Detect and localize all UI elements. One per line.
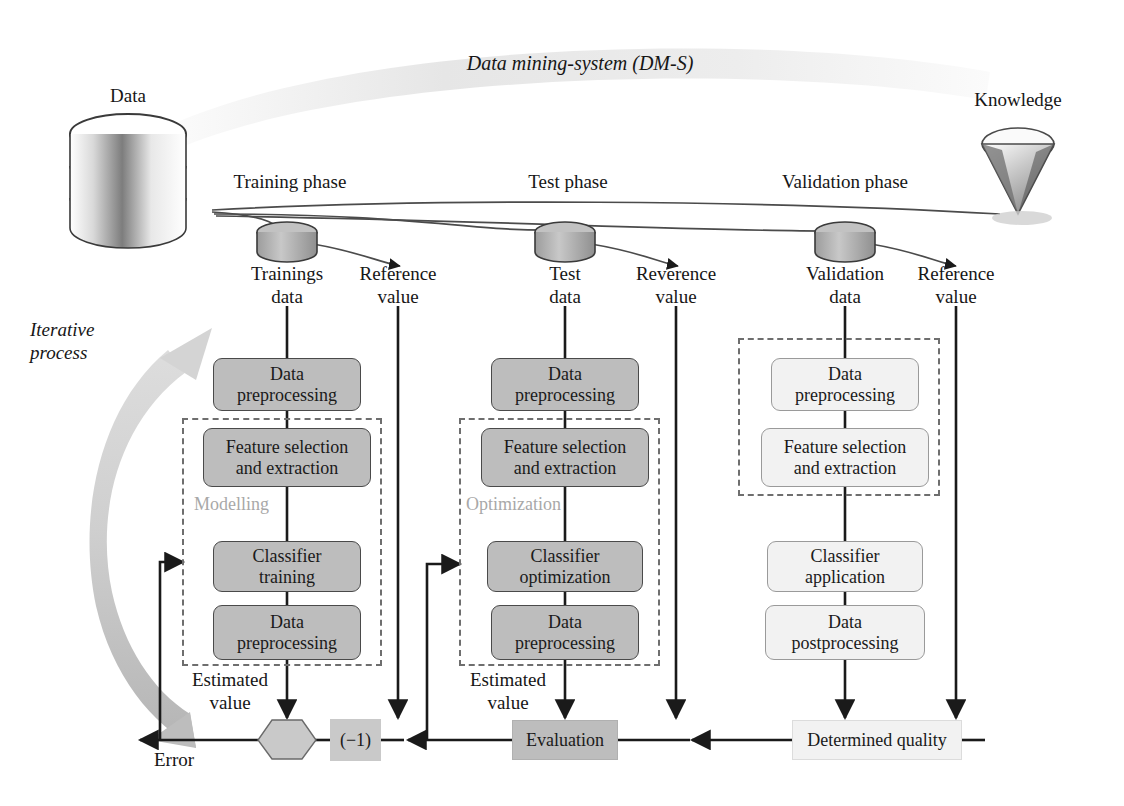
data-cylinder-icon-test <box>535 222 595 262</box>
process-box-training-0[interactable]: Data preprocessing <box>213 358 361 411</box>
phase-label-test: Test phase <box>488 170 648 193</box>
process-box-validation-0[interactable]: Data preprocessing <box>771 358 919 411</box>
reference-label-training: Reference value <box>338 262 458 308</box>
estimated-label-training: Estimated value <box>165 668 295 714</box>
data-label-validation: Validation data <box>785 262 905 308</box>
process-box-test-0[interactable]: Data preprocessing <box>491 358 639 411</box>
data-label-test: Test data <box>505 262 625 308</box>
database-stack-icon <box>70 114 186 248</box>
diamond-gem-icon <box>982 128 1054 225</box>
sum-node-label: + <box>258 729 316 752</box>
reference-label-test: Reverence value <box>616 262 736 308</box>
source-label: Data <box>68 84 188 107</box>
phase-label-validation: Validation phase <box>740 170 950 193</box>
iterative-process-label: Iterative process <box>30 318 160 364</box>
banner-title: Data mining-system (DM-S) <box>430 52 730 75</box>
data-cylinder-icon-validation <box>815 222 875 262</box>
determined-quality-box[interactable]: Determined quality <box>792 720 962 760</box>
data-cylinder-icon-training <box>257 222 317 262</box>
process-box-validation-2[interactable]: Classifier application <box>767 541 923 592</box>
process-box-training-3[interactable]: Data preprocessing <box>213 605 361 660</box>
process-box-test-2[interactable]: Classifier optimization <box>487 541 643 592</box>
target-label: Knowledge <box>958 88 1078 111</box>
data-label-training: Trainings data <box>227 262 347 308</box>
diagram-canvas: Data mining-system (DM-S) Data Knowledge… <box>0 0 1124 806</box>
process-box-test-1[interactable]: Feature selection and extraction <box>481 428 649 487</box>
error-label: Error <box>124 748 224 771</box>
process-box-training-1[interactable]: Feature selection and extraction <box>203 428 371 487</box>
evaluation-box[interactable]: Evaluation <box>512 720 618 760</box>
phase-label-training: Training phase <box>200 170 380 193</box>
process-box-validation-1[interactable]: Feature selection and extraction <box>761 428 929 487</box>
process-box-training-2[interactable]: Classifier training <box>213 541 361 592</box>
process-box-validation-3[interactable]: Data postprocessing <box>765 605 925 660</box>
invert-node[interactable]: (−1) <box>330 719 381 761</box>
reference-label-validation: Reference value <box>896 262 1016 308</box>
group-label-optimization: Optimization <box>466 494 561 515</box>
process-box-test-3[interactable]: Data preprocessing <box>491 605 639 660</box>
phase-distribution-lines <box>212 202 1000 266</box>
estimated-label-test: Estimated value <box>443 668 573 714</box>
group-label-modelling: Modelling <box>194 494 269 515</box>
